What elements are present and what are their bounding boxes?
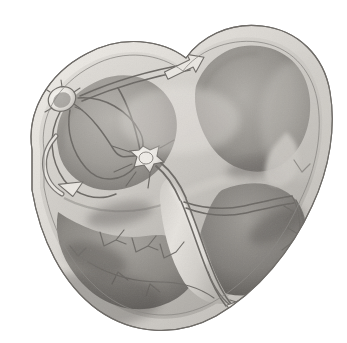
arrow-rv-apex [264, 289, 294, 313]
arrow-lv-apex [285, 246, 318, 281]
cardiac-conduction-figure [0, 0, 347, 343]
myocardium [0, 0, 347, 343]
heart-illustration [0, 0, 347, 343]
paper-grain [0, 0, 347, 343]
